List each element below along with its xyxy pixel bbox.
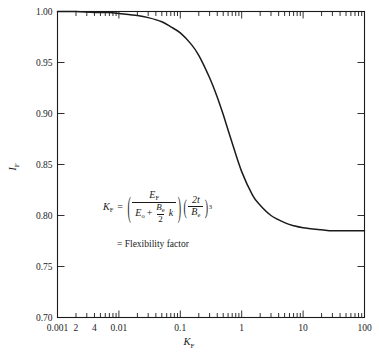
- plot-frame: [58, 12, 365, 318]
- formula-equals: =: [117, 201, 123, 212]
- formula-exponent: 3: [209, 203, 212, 210]
- x-tick-label: 4: [92, 323, 97, 333]
- formula-close-paren-left: ): [178, 190, 181, 224]
- x-tick-label: 10: [298, 323, 308, 333]
- x-tick-label: 1: [239, 323, 244, 333]
- y-tick-label: 0.90: [36, 109, 53, 119]
- formula-den-k: k: [169, 208, 173, 219]
- formula-right-num: 2t: [189, 195, 203, 206]
- x-axis-ticks: [58, 12, 365, 318]
- x-tick-label: 0.1: [174, 323, 186, 333]
- x-tick-label: 100: [357, 323, 372, 333]
- formula-inner-num: Be: [155, 203, 165, 213]
- y-axis-title-sub: F: [13, 163, 21, 167]
- formula-open-paren-right: (: [183, 195, 186, 218]
- formula-open-paren-left: (: [127, 190, 130, 224]
- formula-numerator: EF: [146, 190, 162, 202]
- formula-lhs: KF: [103, 201, 113, 213]
- formula-den-plus: +: [147, 208, 153, 219]
- y-tick-label: 0.80: [36, 211, 53, 221]
- y-axis-title: IF: [7, 163, 21, 172]
- flexibility-factor-chart: 0.001240.010.1110100 0.700.750.800.850.9…: [0, 0, 379, 358]
- formula-main-fraction: EF Eo + Be 2 k: [132, 190, 176, 224]
- x-tick-label: 0.001: [47, 323, 69, 333]
- y-axis-ticks: [58, 12, 365, 318]
- formula-inner-den: 2: [157, 214, 164, 224]
- formula-right-den: Be: [188, 206, 203, 219]
- y-tick-label: 0.95: [36, 58, 53, 68]
- x-tick-label: 0.01: [111, 323, 128, 333]
- formula-den-first: Eo: [135, 208, 144, 219]
- y-tick-label: 1.00: [36, 7, 53, 17]
- figure-container: 0.001240.010.1110100 0.700.750.800.850.9…: [0, 0, 379, 358]
- x-tick-label: 2: [74, 323, 79, 333]
- formula-inner-fraction: Be 2: [155, 203, 165, 223]
- y-tick-label: 0.85: [36, 160, 53, 170]
- x-axis-title-sub: F: [191, 342, 195, 350]
- formula-close-paren-right: ): [205, 195, 208, 218]
- formula-right-fraction: 2t Be: [188, 195, 203, 219]
- formula-caption: = Flexibility factor: [117, 239, 189, 249]
- flexibility-factor-formula: KF = ( EF Eo + Be 2 k ) ( 2t Be ) 3: [103, 190, 212, 224]
- y-tick-label: 0.70: [36, 313, 53, 323]
- x-axis-title: KF: [183, 336, 195, 350]
- y-axis-tick-labels: 0.700.750.800.850.900.951.00: [36, 7, 53, 323]
- y-tick-label: 0.75: [36, 262, 53, 272]
- x-axis-tick-labels: 0.001240.010.1110100: [47, 323, 372, 333]
- formula-denominator: Eo + Be 2 k: [132, 202, 176, 224]
